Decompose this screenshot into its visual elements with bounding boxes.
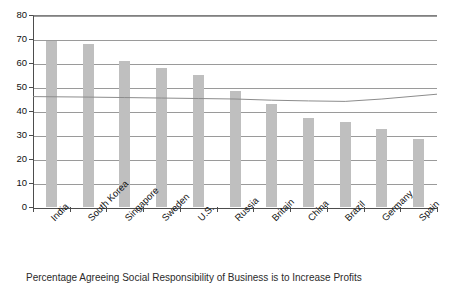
gridline <box>34 208 437 209</box>
y-axis-tick-label: 30 <box>0 130 27 140</box>
y-axis-tick-label: 80 <box>0 10 27 20</box>
y-axis-tick-label: 60 <box>0 58 27 68</box>
x-axis-tickmark <box>180 207 181 212</box>
x-axis-tickmark <box>437 207 438 212</box>
x-axis-tickmark <box>400 207 401 212</box>
x-axis-tickmark <box>106 207 107 212</box>
x-axis-tickmark <box>364 207 365 212</box>
x-axis-tickmark <box>70 207 71 212</box>
x-axis-tickmark <box>290 207 291 212</box>
x-axis-tickmark <box>253 207 254 212</box>
chart-caption: Percentage Agreeing Social Responsibilit… <box>26 272 446 283</box>
x-axis-ticks <box>33 15 437 207</box>
x-axis-tickmark <box>33 207 34 212</box>
y-axis-tick-label: 50 <box>0 82 27 92</box>
y-axis-tick-label: 10 <box>0 178 27 188</box>
x-axis-tickmark <box>143 207 144 212</box>
x-axis-tickmark <box>217 207 218 212</box>
y-axis-tick-label: 0 <box>0 202 27 212</box>
y-axis-tick-label: 70 <box>0 34 27 44</box>
y-axis-tick-label: 40 <box>0 106 27 116</box>
y-axis-tick-label: 20 <box>0 154 27 164</box>
x-axis-tickmark <box>327 207 328 212</box>
